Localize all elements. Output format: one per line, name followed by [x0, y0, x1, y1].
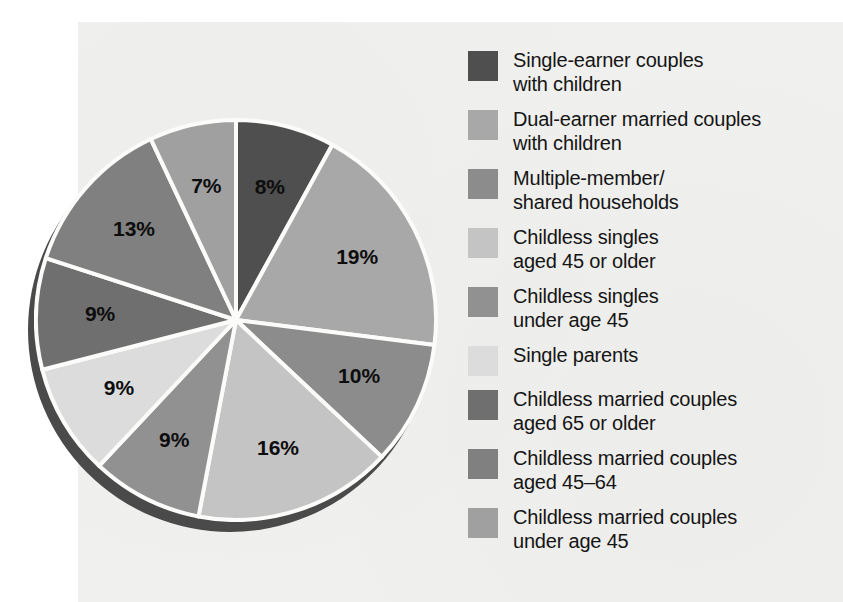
chart-legend: Single-earner couples with childrenDual-… [468, 48, 838, 564]
legend-item[interactable]: Childless married couples under age 45 [468, 505, 838, 553]
legend-item-label: Childless singles aged 45 or older [513, 225, 659, 273]
chart-page: 8%19%10%16%9%9%9%13%7% Single-earner cou… [0, 0, 843, 602]
legend-color-swatch [468, 346, 498, 376]
legend-color-swatch [468, 449, 498, 479]
legend-item-label: Childless singles under age 45 [513, 284, 659, 332]
pie-chart: 8%19%10%16%9%9%9%13%7% [22, 112, 452, 542]
pie-slice-label: 10% [338, 364, 380, 387]
legend-item[interactable]: Childless singles aged 45 or older [468, 225, 838, 273]
pie-slice-label: 9% [85, 302, 116, 325]
legend-color-swatch [468, 169, 498, 199]
legend-item[interactable]: Childless married couples aged 45–64 [468, 446, 838, 494]
pie-chart-svg: 8%19%10%16%9%9%9%13%7% [34, 118, 438, 522]
pie-slice-label: 8% [255, 175, 286, 198]
legend-item[interactable]: Single-earner couples with children [468, 48, 838, 96]
pie-slice-label: 13% [113, 217, 155, 240]
legend-item-label: Childless married couples aged 65 or old… [513, 387, 737, 435]
pie-slice-label: 9% [104, 376, 135, 399]
legend-color-swatch [468, 390, 498, 420]
pie-slice-label: 16% [257, 436, 299, 459]
pie-slice-label: 9% [159, 428, 190, 451]
legend-item-label: Multiple-member/ shared households [513, 166, 679, 214]
legend-item-label: Childless married couples under age 45 [513, 505, 737, 553]
legend-color-swatch [468, 508, 498, 538]
legend-color-swatch [468, 228, 498, 258]
legend-item-label: Single-earner couples with children [513, 48, 703, 96]
legend-item[interactable]: Childless married couples aged 65 or old… [468, 387, 838, 435]
legend-color-swatch [468, 110, 498, 140]
legend-color-swatch [468, 287, 498, 317]
legend-item-label: Childless married couples aged 45–64 [513, 446, 737, 494]
pie-slice-label: 19% [336, 245, 378, 268]
legend-item[interactable]: Childless singles under age 45 [468, 284, 838, 332]
legend-item-label: Single parents [513, 343, 638, 367]
pie-slice-label: 7% [191, 174, 222, 197]
legend-item[interactable]: Single parents [468, 343, 838, 376]
legend-item[interactable]: Multiple-member/ shared households [468, 166, 838, 214]
legend-color-swatch [468, 51, 498, 81]
legend-item-label: Dual-earner married couples with childre… [513, 107, 761, 155]
legend-item[interactable]: Dual-earner married couples with childre… [468, 107, 838, 155]
